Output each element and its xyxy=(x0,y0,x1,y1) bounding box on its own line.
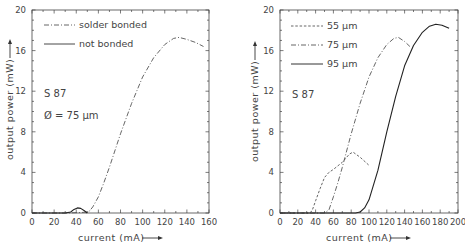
left-y-axis-label: output power (mW) xyxy=(4,59,15,160)
right-x-arrow-icon xyxy=(390,236,411,240)
x-tick-label: 140 xyxy=(179,217,195,227)
x-tick-label: 140 xyxy=(396,217,412,227)
left-annotation-diameter: Ø = 75 µm xyxy=(44,110,99,121)
legend-label-75um: 75 µm xyxy=(327,39,357,50)
left-annotation-sample: S 87 xyxy=(44,88,66,99)
right-y-axis-label: output power (mW) xyxy=(249,61,260,162)
left-x-arrow-icon xyxy=(142,236,163,240)
y-tick-label: 4 xyxy=(21,167,26,177)
x-tick-label: 120 xyxy=(379,217,395,227)
x-tick-label: 60 xyxy=(93,217,104,227)
y-tick-label: 16 xyxy=(263,46,274,56)
x-tick-label: 200 xyxy=(450,217,465,227)
left-y-arrow-icon xyxy=(8,39,12,58)
x-tick-label: 0 xyxy=(29,217,34,227)
right-chart: 020406080100120140160180200048121620 55 … xyxy=(249,5,465,243)
x-tick-label: 20 xyxy=(49,217,60,227)
x-tick-label: 160 xyxy=(201,217,217,227)
x-tick-label: 60 xyxy=(328,217,339,227)
y-tick-label: 16 xyxy=(15,46,26,56)
y-tick-label: 12 xyxy=(263,86,274,96)
right-x-axis-label: current (mA) xyxy=(326,232,392,243)
x-tick-label: 20 xyxy=(292,217,303,227)
right-y-arrow-icon xyxy=(253,41,257,60)
x-tick-label: 100 xyxy=(361,217,377,227)
series-solder-bonded xyxy=(32,37,204,213)
left-legend: solder bonded not bonded xyxy=(44,19,147,49)
series-95-m xyxy=(280,24,449,213)
x-tick-label: 0 xyxy=(277,217,282,227)
right-series xyxy=(280,24,449,213)
x-tick-label: 80 xyxy=(346,217,357,227)
x-tick-label: 180 xyxy=(432,217,448,227)
y-tick-label: 0 xyxy=(21,208,26,218)
y-tick-label: 12 xyxy=(15,86,26,96)
x-tick-label: 80 xyxy=(115,217,126,227)
y-tick-label: 4 xyxy=(269,167,274,177)
legend-label-55um: 55 µm xyxy=(327,20,357,31)
x-tick-label: 100 xyxy=(135,217,151,227)
y-tick-label: 0 xyxy=(269,208,274,218)
series-55-m xyxy=(280,152,369,213)
right-annotation-sample: S 87 xyxy=(292,89,314,100)
left-chart: 020406080100120140160048121620 solder bo… xyxy=(4,5,217,243)
legend-label-solder-bonded: solder bonded xyxy=(79,19,147,30)
y-tick-label: 8 xyxy=(21,127,26,137)
y-tick-label: 20 xyxy=(263,5,274,15)
right-plot-frame xyxy=(280,10,458,213)
x-tick-label: 40 xyxy=(310,217,321,227)
x-tick-label: 120 xyxy=(157,217,173,227)
legend-label-95um: 95 µm xyxy=(327,58,357,69)
left-series xyxy=(32,37,204,213)
left-x-axis-label: current (mA) xyxy=(78,232,144,243)
x-tick-label: 160 xyxy=(414,217,430,227)
legend-label-not-bonded: not bonded xyxy=(79,38,133,49)
figure: 020406080100120140160048121620 solder bo… xyxy=(0,0,465,248)
right-ticks: 020406080100120140160180200048121620 xyxy=(263,5,465,227)
y-tick-label: 8 xyxy=(269,127,274,137)
x-tick-label: 40 xyxy=(71,217,82,227)
right-legend: 55 µm 75 µm 95 µm xyxy=(291,20,357,69)
y-tick-label: 20 xyxy=(15,5,26,15)
